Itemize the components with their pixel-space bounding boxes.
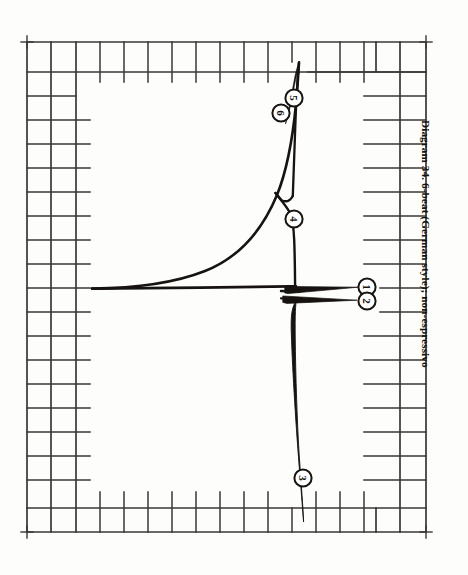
beat-marker-1-label: 1: [361, 284, 373, 290]
figure-caption: Diagram 34. 6-beat (German style); non-e…: [412, 120, 436, 440]
grid-bottom-ticks: [100, 492, 364, 532]
beat4-descent-stroke: [276, 193, 296, 286]
beat-path-group: [92, 62, 358, 522]
beat-marker-3-label: 3: [297, 475, 309, 481]
beat-marker-6-label: 6: [275, 110, 287, 116]
beat-marker-3[interactable]: 3: [294, 469, 311, 486]
beat-marker-5[interactable]: 5: [285, 89, 302, 106]
beat-marker-6[interactable]: 6: [272, 104, 289, 121]
figure-page: 1 2 3 4 5 6 Di: [0, 0, 468, 575]
rising-sweep-curve: [92, 63, 299, 289]
beat-marker-2[interactable]: 2: [358, 292, 375, 309]
beat-marker-2-label: 2: [361, 298, 373, 304]
grid-left-ticks: [27, 120, 90, 480]
beat-marker-4[interactable]: 4: [285, 210, 302, 227]
crossing-stub-stroke: [281, 291, 300, 292]
beat3-downward-loop: [291, 298, 303, 522]
grid-top-ticks: [100, 42, 364, 82]
beat-marker-4-label: 4: [288, 216, 300, 222]
beat-marker-5-label: 5: [288, 95, 300, 101]
diagram-canvas: 1 2 3 4 5 6: [0, 0, 468, 575]
figure-caption-text: Diagram 34. 6-beat (German style); non-e…: [420, 120, 432, 368]
